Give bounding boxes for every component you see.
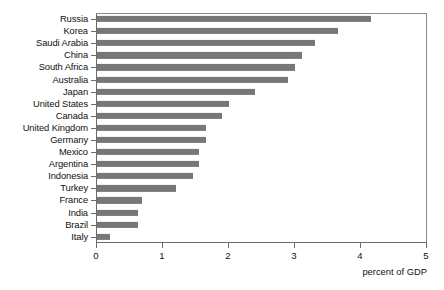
x-axis-tick-label: 4 <box>357 250 362 261</box>
y-axis-tick <box>91 55 96 56</box>
category-label: United Kingdom <box>0 123 88 133</box>
x-axis-tick-label: 3 <box>291 250 296 261</box>
x-axis-tick <box>228 243 229 248</box>
y-axis-tick <box>91 152 96 153</box>
x-axis: 012345 <box>96 243 427 244</box>
bar <box>97 185 176 191</box>
y-axis-tick <box>91 116 96 117</box>
category-label: United States <box>0 99 88 109</box>
bar-row: France <box>0 194 444 206</box>
bar-row: Argentina <box>0 158 444 170</box>
category-label: Saudi Arabia <box>0 38 88 48</box>
bar-row: Canada <box>0 110 444 122</box>
bar-row: United Kingdom <box>0 122 444 134</box>
y-axis-tick <box>91 140 96 141</box>
category-label: Italy <box>0 232 88 242</box>
category-label: Brazil <box>0 220 88 230</box>
category-label: Russia <box>0 14 88 24</box>
category-label: Germany <box>0 135 88 145</box>
bar-row: United States <box>0 98 444 110</box>
bar <box>97 76 288 82</box>
bar <box>97 40 315 46</box>
category-label: Korea <box>0 26 88 36</box>
bar <box>97 125 206 131</box>
x-axis-title: percent of GDP <box>362 266 427 277</box>
x-axis-tick <box>360 243 361 248</box>
category-label: Australia <box>0 75 88 85</box>
bar-row: India <box>0 207 444 219</box>
bar <box>97 234 110 240</box>
bar <box>97 101 229 107</box>
y-axis-tick <box>91 128 96 129</box>
x-axis-tick-label: 0 <box>93 250 98 261</box>
category-label: Mexico <box>0 147 88 157</box>
y-axis-tick <box>91 237 96 238</box>
y-axis-tick <box>91 200 96 201</box>
x-axis-tick <box>294 243 295 248</box>
category-label: France <box>0 195 88 205</box>
bar-row: Russia <box>0 13 444 25</box>
bar-row: Germany <box>0 134 444 146</box>
y-axis-tick <box>91 164 96 165</box>
bar <box>97 197 142 203</box>
category-label: South Africa <box>0 62 88 72</box>
category-label: Argentina <box>0 159 88 169</box>
bar <box>97 28 338 34</box>
y-axis-tick <box>91 31 96 32</box>
bar-row: Turkey <box>0 182 444 194</box>
bar <box>97 222 138 228</box>
y-axis-tick <box>91 19 96 20</box>
bar <box>97 113 222 119</box>
x-axis-tick <box>162 243 163 248</box>
bar-row: China <box>0 49 444 61</box>
x-axis-tick-label: 2 <box>225 250 230 261</box>
bar-row: Italy <box>0 231 444 243</box>
bar <box>97 52 302 58</box>
bar <box>97 149 199 155</box>
y-axis-tick <box>91 213 96 214</box>
bar-row: Saudi Arabia <box>0 37 444 49</box>
bar-row: Brazil <box>0 219 444 231</box>
y-axis-tick <box>91 67 96 68</box>
bar <box>97 64 295 70</box>
y-axis-tick <box>91 43 96 44</box>
y-axis-tick <box>91 225 96 226</box>
x-axis-tick <box>426 243 427 248</box>
bar-row: Indonesia <box>0 170 444 182</box>
y-axis-tick <box>91 188 96 189</box>
bar-chart: RussiaKoreaSaudi ArabiaChinaSouth Africa… <box>0 0 444 290</box>
category-label: Canada <box>0 111 88 121</box>
category-label: China <box>0 50 88 60</box>
bar <box>97 16 371 22</box>
category-label: Indonesia <box>0 171 88 181</box>
x-axis-tick-label: 5 <box>423 250 428 261</box>
x-axis-tick-label: 1 <box>159 250 164 261</box>
bar-row: Mexico <box>0 146 444 158</box>
category-label: Japan <box>0 87 88 97</box>
bar-row: South Africa <box>0 61 444 73</box>
bar-row: Korea <box>0 25 444 37</box>
category-label: India <box>0 208 88 218</box>
y-axis-tick <box>91 92 96 93</box>
y-axis-tick <box>91 176 96 177</box>
y-axis-tick <box>91 104 96 105</box>
bar <box>97 161 199 167</box>
bar <box>97 137 206 143</box>
category-label: Turkey <box>0 183 88 193</box>
bar-rows: RussiaKoreaSaudi ArabiaChinaSouth Africa… <box>0 13 444 243</box>
bar-row: Japan <box>0 86 444 98</box>
y-axis-tick <box>91 80 96 81</box>
bar <box>97 173 193 179</box>
bar-row: Australia <box>0 73 444 85</box>
x-axis-tick <box>96 243 97 248</box>
bar <box>97 89 255 95</box>
bar <box>97 209 138 215</box>
